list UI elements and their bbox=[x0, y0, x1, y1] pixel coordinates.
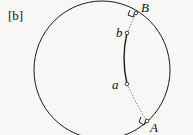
panel-label: [b] bbox=[8, 8, 23, 23]
label-B: B bbox=[141, 0, 149, 15]
label-a: a bbox=[112, 77, 119, 92]
solid-arc-ab bbox=[124, 33, 127, 84]
outer-circle bbox=[34, 1, 170, 135]
point-a bbox=[125, 82, 129, 86]
dotted-segment-bottom bbox=[127, 84, 147, 121]
point-A bbox=[145, 119, 149, 123]
point-b bbox=[125, 31, 129, 35]
label-b: b bbox=[116, 25, 123, 40]
point-B bbox=[134, 11, 138, 15]
geometry-diagram: [b] B b a A bbox=[0, 0, 193, 135]
label-A: A bbox=[149, 120, 158, 135]
